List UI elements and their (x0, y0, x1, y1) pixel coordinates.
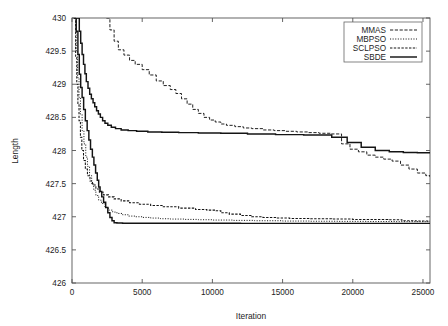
legend-label-sbde: SBDE (364, 53, 387, 62)
x-tick-label: 10000 (201, 288, 224, 297)
x-tick-label: 5000 (133, 288, 152, 297)
chart-legend: MMASMBPSOSCLPSOSBDE (344, 22, 422, 62)
x-tick-label: 15000 (271, 288, 294, 297)
x-tick-label: 25000 (412, 288, 435, 297)
y-axis-title: Length (10, 138, 20, 164)
x-tick-label: 20000 (341, 288, 364, 297)
y-tick-label: 429.5 (46, 47, 67, 56)
y-tick-label: 428.5 (46, 113, 67, 122)
line-chart: 0500010000150002000025000426426.5427427.… (0, 0, 448, 326)
legend-label-mbpso: MBPSO (356, 35, 386, 44)
legend-label-mmas: MMAS (361, 26, 386, 35)
y-tick-label: 428 (52, 147, 66, 156)
legend-label-sclpso: SCLPSO (353, 44, 386, 53)
y-tick-label: 427 (52, 213, 66, 222)
y-tick-label: 427.5 (46, 180, 67, 189)
y-tick-label: 430 (52, 14, 66, 23)
x-axis-title: Iteration (236, 311, 267, 321)
y-tick-label: 426.5 (46, 246, 67, 255)
x-tick-label: 0 (70, 288, 75, 297)
y-tick-label: 429 (52, 80, 66, 89)
y-tick-label: 426 (52, 279, 66, 288)
chart-figure: 0500010000150002000025000426426.5427427.… (0, 0, 448, 326)
